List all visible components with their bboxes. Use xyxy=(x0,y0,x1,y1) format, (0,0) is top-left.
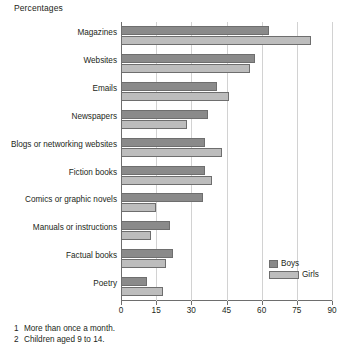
bar-group: Newspapers xyxy=(121,106,332,134)
tick-mark-0 xyxy=(121,301,122,305)
footnote-2: 2Children aged 9 to 14. xyxy=(14,334,115,345)
bar-girls xyxy=(121,287,163,296)
bar-girls xyxy=(121,203,156,212)
footnote-2-number: 2 xyxy=(14,334,24,345)
footnote-2-text: Children aged 9 to 14. xyxy=(24,335,105,344)
bar-boys xyxy=(121,193,203,202)
tick-mark-15 xyxy=(156,301,157,305)
bar-boys xyxy=(121,110,208,119)
tick-label-45: 45 xyxy=(222,306,231,315)
bar-boys xyxy=(121,138,205,147)
bar-girls xyxy=(121,176,212,185)
footnote-1-text: More than once a month. xyxy=(24,324,115,333)
category-label: Factual books xyxy=(66,251,117,260)
tick-label-30: 30 xyxy=(187,306,196,315)
bar-group: Emails xyxy=(121,78,332,106)
tick-mark-60 xyxy=(262,301,263,305)
tick-mark-45 xyxy=(227,301,228,305)
gridline-90 xyxy=(332,22,333,301)
tick-label-0: 0 xyxy=(119,306,124,315)
bar-boys xyxy=(121,249,173,258)
category-label: Manuals or instructions xyxy=(33,223,117,232)
footnotes: 1More than once a month. 2Children aged … xyxy=(14,323,115,345)
bar-girls xyxy=(121,92,229,101)
tick-label-15: 15 xyxy=(152,306,161,315)
legend-item-girls: Girls xyxy=(269,270,319,281)
tick-label-60: 60 xyxy=(257,306,266,315)
bar-boys xyxy=(121,82,217,91)
bar-boys xyxy=(121,277,147,286)
footnote-1-number: 1 xyxy=(14,323,24,334)
bar-boys xyxy=(121,26,269,35)
tick-mark-90 xyxy=(332,301,333,305)
tick-mark-30 xyxy=(191,301,192,305)
legend-label-girls: Girls xyxy=(302,270,319,279)
bar-group: Magazines xyxy=(121,22,332,50)
bar-group: Blogs or networking websites xyxy=(121,134,332,162)
category-label: Magazines xyxy=(77,28,117,37)
category-label: Blogs or networking websites xyxy=(11,140,117,149)
bar-group: Comics or graphic novels xyxy=(121,189,332,217)
category-label: Websites xyxy=(83,56,117,65)
bar-girls xyxy=(121,120,187,129)
tick-mark-75 xyxy=(297,301,298,305)
bar-boys xyxy=(121,166,205,175)
tick-label-90: 90 xyxy=(327,306,336,315)
bar-girls xyxy=(121,36,311,45)
category-label: Fiction books xyxy=(69,168,117,177)
category-label: Poetry xyxy=(93,279,117,288)
page-title: Percentages xyxy=(14,3,63,13)
bar-group: Fiction books xyxy=(121,162,332,190)
bar-girls xyxy=(121,64,250,73)
category-label: Emails xyxy=(92,84,117,93)
footnote-1: 1More than once a month. xyxy=(14,323,115,334)
bar-group: Websites xyxy=(121,50,332,78)
bar-group: Manuals or instructions xyxy=(121,217,332,245)
bar-boys xyxy=(121,54,255,63)
legend-swatch-boys xyxy=(269,260,278,268)
chart-legend: Boys Girls xyxy=(269,259,319,281)
bar-girls xyxy=(121,231,151,240)
category-label: Comics or graphic novels xyxy=(25,195,117,204)
legend-label-boys: Boys xyxy=(281,259,299,268)
bar-girls xyxy=(121,259,166,268)
category-label: Newspapers xyxy=(71,112,117,121)
bar-girls xyxy=(121,148,222,157)
tick-label-75: 75 xyxy=(292,306,301,315)
legend-item-boys: Boys xyxy=(269,259,319,270)
bar-boys xyxy=(121,221,170,230)
legend-swatch-girls xyxy=(269,271,299,279)
